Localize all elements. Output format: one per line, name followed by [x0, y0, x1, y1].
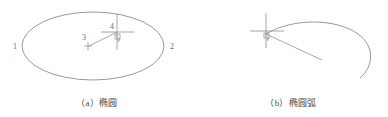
- pickbox-arrow-icon-a: [115, 34, 120, 42]
- ellipse-center-grip-marker: [84, 42, 92, 50]
- panel-a-caption: （a）椭圆: [0, 96, 194, 109]
- crosshair-cursor-b: [250, 13, 284, 48]
- panel-b-arc-group: [250, 13, 371, 78]
- crosshair-cursor-a: [101, 14, 134, 50]
- ellipse-label-2: 2: [170, 42, 174, 51]
- ellipse-label-1: 1: [13, 42, 17, 51]
- ellipse-label-4: 4: [110, 22, 114, 31]
- panel-a-ellipse-group: 1 2 3 4: [13, 12, 174, 80]
- panel-b-caption: （b）椭圆弧: [194, 96, 388, 109]
- arc-radius-line: [266, 34, 322, 60]
- elliptical-arc-outline: [266, 22, 371, 78]
- ellipse-radius-line: [89, 32, 117, 46]
- ellipse-label-3: 3: [82, 33, 86, 42]
- figure-container: 1 2 3 4 （a）椭圆 （b）椭圆弧: [0, 0, 388, 117]
- ellipse-outline: [22, 12, 164, 80]
